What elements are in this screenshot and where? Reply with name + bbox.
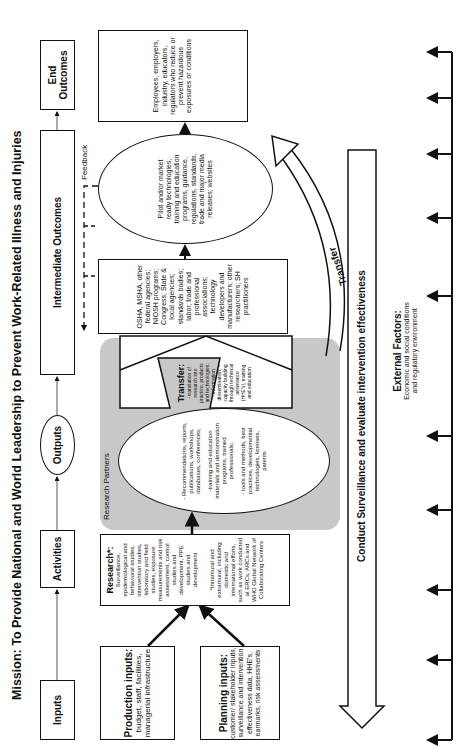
production-inputs-heading: Production inputs: [123, 649, 134, 738]
research-box: Research*: Surveillance, epidemiological… [100, 534, 290, 606]
mission-title: Mission: To Provide National and World L… [10, 130, 24, 700]
planning-inputs-text: customer/ stakeholder inputs, surveillan… [229, 647, 262, 739]
research-heading: Research*: [105, 546, 115, 593]
outputs-item: - Recommendations, reports, publications… [181, 421, 202, 501]
end-outcomes-header: End Outcomes [40, 40, 75, 110]
planning-inputs-heading: Planning inputs: [218, 654, 229, 732]
employees-box: Employees, employers, industry, educator… [98, 30, 248, 122]
intermediate-outcomes-header: Intermediate Outcomes [40, 130, 75, 375]
outputs-ellipse: - Recommendations, reports, publications… [118, 408, 330, 514]
outputs-header: Outputs [40, 415, 75, 475]
pilot-products-ellipse: Pilot and/or market ready technologies, … [98, 134, 273, 244]
activities-header: Activities [40, 530, 75, 588]
transfer-heading: Transfer: [176, 362, 186, 404]
planning-inputs-box: Planning inputs: customer/ stakeholder i… [200, 646, 280, 740]
logic-model-diagram: Mission: To Provide National and World L… [0, 0, 472, 746]
feedback-label: Feedback [80, 145, 89, 180]
outputs-item: -training and education materials and de… [207, 421, 235, 501]
external-factors-heading: External Factors: [392, 296, 403, 406]
research-partners-label: Research Partners [102, 453, 111, 520]
inputs-header: Inputs [40, 680, 75, 740]
research-footnote: *Intramural and extramural, including do… [209, 537, 265, 603]
research-text: Surveillance, epidemiological and behavi… [115, 537, 199, 603]
stakeholders-box: OSHA, MSHA, other federal agencies; NIOS… [98, 259, 288, 334]
transfer-box: Transfer: - translation of research into… [176, 362, 252, 404]
transfer-text: - translation of research into practice,… [186, 362, 252, 404]
production-inputs-text: budget, staff, facilities, managerial in… [134, 647, 152, 739]
production-inputs-box: Production inputs: budget, staff, facili… [100, 646, 175, 740]
external-factors-text: Economic and social conditions and regul… [403, 296, 419, 406]
external-factors: External Factors: Economic and social co… [392, 296, 419, 406]
surveillance-arrow-label: Conduct Surveillance and evaluate interv… [356, 206, 367, 626]
outputs-item: - tools and methods, best practices, dev… [240, 421, 268, 501]
